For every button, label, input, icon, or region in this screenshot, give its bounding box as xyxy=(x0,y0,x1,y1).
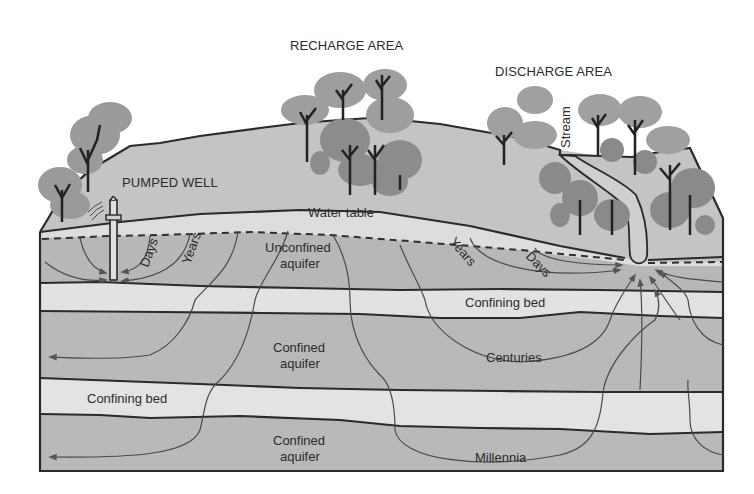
water-table-label: Water table xyxy=(308,205,374,220)
unconfined-aquifer-label-2: aquifer xyxy=(280,256,320,271)
discharge-area-label: DISCHARGE AREA xyxy=(495,64,612,79)
stream-label: Stream xyxy=(558,106,573,148)
confined-aquifer-lower-label-2: aquifer xyxy=(280,449,320,464)
pumped-well-label: PUMPED WELL xyxy=(122,175,218,190)
groundwater-flow-diagram: RECHARGE AREA DISCHARGE AREA PUMPED WELL… xyxy=(0,0,754,494)
confined-aquifer-upper-label-1: Confined xyxy=(273,340,325,355)
confining-bed-upper-label: Confining bed xyxy=(465,295,545,310)
confined-aquifer-upper-layer xyxy=(40,311,723,392)
millennia-label: Millennia xyxy=(475,450,527,465)
confining-bed-lower-label: Confining bed xyxy=(87,391,167,406)
confined-aquifer-upper-label-2: aquifer xyxy=(280,356,320,371)
centuries-label: Centuries xyxy=(486,350,542,365)
unconfined-aquifer-label-1: Unconfined xyxy=(265,240,331,255)
confined-aquifer-lower-label-1: Confined xyxy=(273,433,325,448)
recharge-area-label: RECHARGE AREA xyxy=(290,38,404,53)
